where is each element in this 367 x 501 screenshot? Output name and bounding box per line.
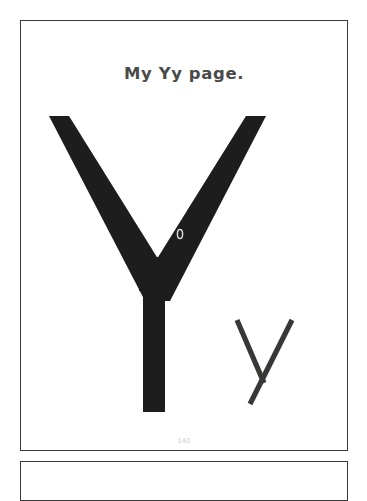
page-title: My Yy page. bbox=[21, 64, 347, 83]
uppercase-y-glyph bbox=[49, 116, 266, 412]
worksheet-page: My Yy page. bbox=[20, 20, 348, 451]
stray-mark-0 bbox=[177, 229, 182, 238]
page-number: 140 bbox=[21, 437, 347, 444]
next-page-top-edge bbox=[20, 461, 348, 501]
lowercase-y-glyph bbox=[237, 320, 292, 404]
letter-artwork bbox=[21, 21, 349, 452]
